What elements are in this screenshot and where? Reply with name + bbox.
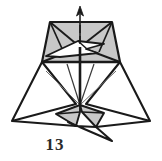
- right-wing-to-center: [96, 121, 150, 127]
- left-wing-to-center: [12, 121, 76, 126]
- right-shade-outer-edge: [82, 112, 104, 113]
- origami-figure: 13: [0, 0, 162, 161]
- step-number-label: 13: [0, 134, 110, 156]
